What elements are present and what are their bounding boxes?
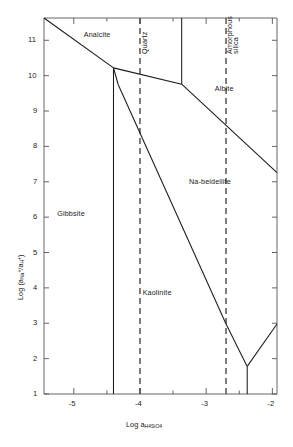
y-tick-label: 8 — [33, 141, 37, 150]
y-tick-label: 9 — [33, 106, 37, 115]
saturation-lines — [140, 18, 226, 394]
y-tick-label: 5 — [33, 248, 37, 257]
y-axis-title: Log (aNa+/aH+) — [16, 254, 25, 300]
field-label-analcite: Analcite — [84, 30, 111, 39]
boundary-analcite-albite-flat — [114, 68, 182, 84]
x-title-sub-4b: 4 — [159, 423, 162, 429]
y-title-sub-h: H — [19, 260, 25, 264]
x-title-sub-group: H4SiO4 — [145, 423, 163, 429]
y-tick-label: 6 — [33, 212, 37, 221]
y-title-mid: /a — [16, 264, 25, 270]
x-tick-label: -2 — [267, 399, 274, 408]
activity-diagram-plot — [0, 0, 293, 447]
y-tick-label: 1 — [33, 389, 37, 398]
y-tick-label: 2 — [33, 354, 37, 363]
axis-ticks — [44, 18, 277, 394]
field-label-silica: silica — [231, 38, 240, 55]
field-label-quartz: Quartz — [140, 32, 149, 54]
x-tick-label: -5 — [69, 399, 76, 408]
boundary-analcite-nabeidellite — [114, 68, 119, 85]
x-tick-label: -3 — [201, 399, 208, 408]
plot-frame — [44, 18, 277, 394]
y-tick-label: 7 — [33, 177, 37, 186]
y-title-suffix: ) — [16, 254, 25, 256]
x-tick-label: -4 — [135, 399, 142, 408]
boundary-kaolinite-right-v-left — [226, 324, 247, 366]
y-title-sub-na: Na — [19, 273, 25, 279]
x-title-prefix: Log a — [126, 420, 145, 429]
y-tick-label: 3 — [33, 318, 37, 327]
y-tick-label: 11 — [28, 35, 36, 44]
y-tick-label: 10 — [28, 71, 36, 80]
phase-boundaries — [44, 18, 277, 394]
y-title-sup-plus2: + — [16, 257, 22, 260]
field-label-albite: Albite — [215, 84, 234, 93]
boundary-nabeidellite-kaolinite — [118, 85, 226, 324]
field-label-na-beidellite: Na-beidellite — [189, 177, 231, 186]
y-title-sup-plus1: + — [16, 270, 22, 273]
field-label-gibbsite: Gibbsite — [57, 209, 85, 218]
x-axis-title: Log aH4SiO4 — [126, 420, 162, 429]
field-label-kaolinite: Kaolinite — [143, 288, 172, 297]
y-title-prefix: Log (a — [16, 279, 25, 300]
boundary-analcite-albite-upper — [44, 18, 114, 68]
boundary-albite-nabeidellite — [182, 84, 277, 172]
boundary-kaolinite-right-v-right — [247, 324, 277, 366]
y-tick-label: 4 — [33, 283, 37, 292]
phase-diagram-figure: AnalciteAlbiteNa-beidelliteGibbsiteKaoli… — [0, 0, 293, 447]
